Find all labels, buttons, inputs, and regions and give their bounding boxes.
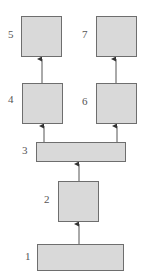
node-2-label: 2 bbox=[44, 194, 50, 205]
node-7-box bbox=[96, 16, 137, 57]
node-2-box bbox=[58, 181, 99, 222]
node-7-label: 7 bbox=[82, 29, 88, 40]
node-1-box bbox=[37, 244, 124, 271]
node-4-label: 4 bbox=[8, 94, 14, 105]
node-5-box bbox=[21, 16, 62, 57]
node-6-box bbox=[96, 83, 137, 124]
node-1-label: 1 bbox=[25, 251, 31, 262]
node-6-label: 6 bbox=[82, 96, 88, 107]
node-3-box bbox=[36, 142, 126, 162]
node-4-box bbox=[22, 83, 63, 124]
node-3-label: 3 bbox=[22, 145, 28, 156]
node-5-label: 5 bbox=[8, 29, 14, 40]
